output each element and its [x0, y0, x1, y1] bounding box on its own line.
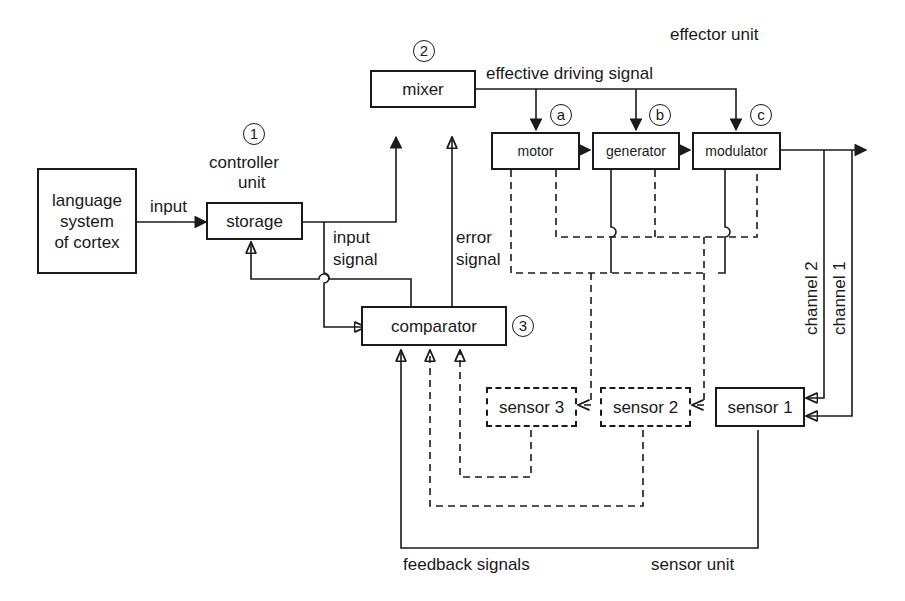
language-system-label: language system of cortex: [52, 190, 122, 253]
channel-2-label: channel 2: [802, 261, 822, 335]
comparator-label: comparator: [391, 316, 477, 337]
motor-box: motor: [491, 132, 580, 170]
comparator-number-badge: 3: [512, 315, 534, 337]
storage-box: storage: [206, 202, 303, 240]
channel-1-label: channel 1: [830, 261, 850, 335]
effective-driving-signal-label: effective driving signal: [486, 64, 653, 84]
error-signal-label-line2: signal: [456, 250, 500, 270]
sensor-2-box: sensor 2: [600, 387, 691, 427]
feedback-signals-label: feedback signals: [403, 555, 530, 575]
generator-box: generator: [592, 132, 680, 170]
controller-unit-label-line1: controller: [209, 153, 279, 173]
input-signal-label-line2: signal: [333, 250, 377, 270]
modulator-letter-badge: c: [750, 104, 772, 126]
storage-label: storage: [226, 211, 283, 232]
modulator-label: modulator: [705, 141, 767, 162]
sensor-1-label: sensor 1: [727, 397, 792, 418]
mixer-label: mixer: [402, 79, 444, 100]
generator-label: generator: [606, 141, 666, 162]
sensor-2-label: sensor 2: [613, 397, 678, 418]
input-signal-label-line1: input: [333, 228, 370, 248]
motor-label: motor: [518, 141, 554, 162]
mixer-number-badge: 2: [413, 40, 435, 62]
error-signal-label-line1: error: [456, 228, 492, 248]
sensor-3-label: sensor 3: [499, 397, 564, 418]
modulator-box: modulator: [692, 132, 781, 170]
language-system-box: language system of cortex: [37, 168, 137, 274]
input-label: input: [150, 197, 187, 217]
mixer-box: mixer: [370, 70, 476, 108]
controller-number-badge: 1: [243, 123, 265, 145]
motor-letter-badge: a: [550, 104, 572, 126]
sensor-unit-label: sensor unit: [651, 555, 734, 575]
sensor-1-box: sensor 1: [715, 387, 805, 427]
generator-letter-badge: b: [649, 104, 671, 126]
sensor-3-box: sensor 3: [486, 387, 577, 427]
effector-unit-label: effector unit: [670, 25, 759, 45]
comparator-box: comparator: [361, 306, 507, 346]
controller-unit-label-line2: unit: [238, 173, 265, 193]
